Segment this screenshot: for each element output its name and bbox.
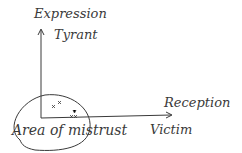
x-axis bbox=[41, 115, 171, 118]
y-axis-label: Expression bbox=[34, 6, 107, 21]
x-axis-right-label: Victim bbox=[150, 122, 192, 137]
mark-x-icon bbox=[52, 105, 55, 108]
y-axis-top-label: Tyrant bbox=[54, 27, 98, 42]
region-label: Area of mistrust bbox=[12, 122, 127, 138]
diagram-canvas: Expression Tyrant Reception Victim Area … bbox=[0, 0, 242, 153]
mark-v-icon bbox=[73, 110, 76, 113]
mark-x-icon bbox=[58, 101, 61, 104]
scatter-marks bbox=[52, 101, 77, 118]
x-axis-label: Reception bbox=[164, 95, 230, 110]
